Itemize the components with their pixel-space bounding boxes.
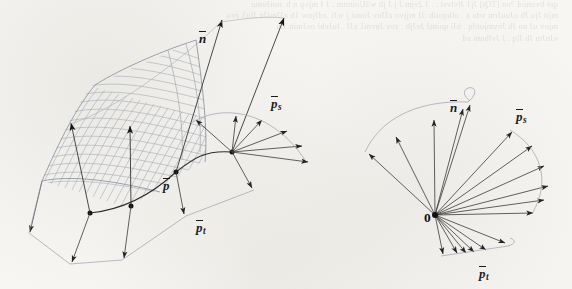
label-pt-bar-left-sub: t bbox=[203, 226, 206, 236]
s-tangent-vector bbox=[196, 120, 232, 152]
figure-root: qoi bvomid ?on [TQt] Jj1 Jlvlvsl . . J 2… bbox=[0, 0, 572, 289]
label-n-bar-left: n bbox=[199, 31, 206, 45]
label-ps-bar-left: ps bbox=[271, 96, 282, 112]
n-fan-vector bbox=[369, 154, 435, 215]
t-tangent-vector bbox=[232, 152, 252, 188]
label-pt-bar-right: pt bbox=[479, 266, 489, 282]
normal-envelope-guides bbox=[70, 17, 283, 124]
label-ps-bar-right-base: p bbox=[516, 109, 523, 123]
label-p-bar-left: p bbox=[163, 178, 170, 192]
n-fan-envelope-hook bbox=[464, 88, 474, 102]
label-ps-bar-left-sub: s bbox=[278, 102, 282, 112]
t-tangent-vector bbox=[124, 206, 131, 258]
label-pt-bar-right-sub: t bbox=[486, 272, 489, 282]
label-pt-bar-right-base: p bbox=[479, 266, 486, 280]
surface-wireframe-mesh bbox=[40, 44, 226, 215]
label-n-bar-right: n bbox=[450, 100, 457, 114]
label-pt-bar-left-base: p bbox=[196, 220, 203, 234]
label-n-bar-left-text: n bbox=[199, 31, 206, 45]
pt-fan-vector bbox=[435, 215, 474, 252]
label-origin: 0 bbox=[424, 210, 431, 226]
s-tangent-vector-field bbox=[193, 113, 308, 162]
s-tangent-vector bbox=[232, 152, 308, 162]
t-tangent-envelope-path bbox=[29, 190, 254, 264]
t-tangent-vector-field bbox=[29, 152, 254, 264]
label-p-bar-left-text: p bbox=[163, 178, 170, 192]
n-fan-vector bbox=[435, 109, 463, 215]
n-fan-vector bbox=[435, 105, 470, 215]
n-fan-vector bbox=[434, 120, 435, 215]
s-tangent-vector bbox=[232, 131, 287, 152]
pt-fan-vector bbox=[435, 215, 457, 253]
pt-fan-envelope-path bbox=[441, 238, 514, 256]
label-ps-bar-left-base: p bbox=[271, 96, 278, 110]
s-tangent-vector bbox=[232, 146, 302, 152]
ps-fan-vector bbox=[435, 146, 532, 215]
t-tangent-guide bbox=[29, 181, 42, 233]
left-panel-group bbox=[29, 17, 308, 264]
ps-fan-envelope-arc bbox=[510, 130, 542, 214]
normal-vector-field bbox=[71, 18, 284, 213]
normal-vector bbox=[130, 126, 131, 206]
pt-fan-vectors bbox=[435, 215, 514, 256]
t-tangent-vector bbox=[72, 213, 90, 262]
ps-fan-vector bbox=[435, 186, 548, 215]
pt-fan-vector bbox=[435, 215, 443, 254]
label-pt-bar-left: pt bbox=[196, 220, 206, 236]
t-tangent-vector bbox=[176, 172, 184, 214]
s-tangent-vector bbox=[232, 120, 262, 152]
surface-far-edge bbox=[168, 44, 200, 160]
normal-vector bbox=[232, 18, 284, 152]
label-n-bar-right-text: n bbox=[450, 100, 457, 114]
ps-fan-vector bbox=[435, 132, 512, 215]
n-fan-vectors bbox=[365, 88, 475, 215]
origin-point bbox=[432, 212, 438, 218]
pt-fan-vector bbox=[435, 215, 466, 253]
diagram-canvas bbox=[0, 0, 572, 289]
label-ps-bar-right-sub: s bbox=[523, 115, 527, 125]
n-fan-vector bbox=[396, 137, 435, 215]
ps-fan-vectors bbox=[435, 130, 548, 215]
label-ps-bar-right: ps bbox=[516, 109, 527, 125]
